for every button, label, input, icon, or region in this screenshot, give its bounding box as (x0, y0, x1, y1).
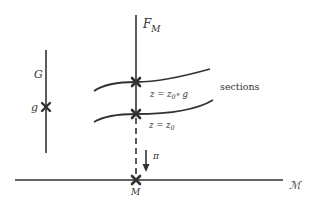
projection-arrow-icon (143, 150, 150, 172)
projection-label: π (152, 151, 160, 161)
fiber-label: FM (142, 17, 161, 34)
lower-section-label: z = z0 (148, 120, 175, 132)
group-label: G (34, 68, 43, 81)
upper-section-curve (94, 69, 210, 91)
base-space-label: ℳ (289, 179, 303, 192)
upper-section-label: z = z0∘ g (149, 89, 188, 101)
base-point-label: M (130, 187, 141, 197)
lower-section-curve (94, 100, 213, 122)
group-element-label: g (31, 101, 38, 114)
sections-label: sections (220, 81, 260, 92)
fiber-bundle-diagram: G g FM z = z0∘ g z = z0 sections π M ℳ (0, 0, 315, 206)
